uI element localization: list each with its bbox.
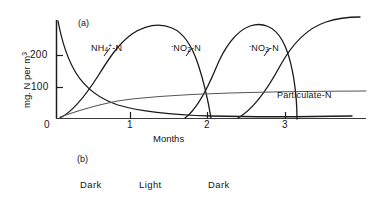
ammonium-base: NH [91, 43, 104, 53]
y-axis-title-exponent: 3 [21, 52, 28, 56]
curve-particulate [238, 17, 360, 118]
series-label-nitrate: -NO3-N [249, 43, 279, 54]
nitrate-base: NO [251, 43, 265, 53]
ammonium-tail: -N [112, 43, 122, 53]
phase-label-dark-1: Dark [80, 180, 102, 190]
figure-canvas [0, 0, 374, 203]
series-label-nitrite: -NO2-N [171, 43, 201, 54]
nitrate-tail: -N [269, 43, 279, 53]
x-tick-label-3: 3 [282, 120, 288, 130]
curve-nitrite [60, 25, 211, 118]
phase-label-dark-2: Dark [208, 180, 230, 190]
y-tick-label-200: 200 [30, 50, 48, 60]
y-axis-title: mg. N per m3 [22, 52, 32, 108]
panel-b-label: (b) [77, 155, 88, 164]
nitrite-tail: -N [191, 43, 201, 53]
curve-nitrate [185, 25, 297, 119]
series-label-particulate: Particulate-N [277, 91, 332, 100]
panel-a-label: (a) [78, 19, 89, 28]
nitrogen-cycle-figure: mg. N per m3 200 100 0 1 2 3 Months (a) … [0, 0, 374, 203]
phase-label-light: Light [139, 180, 162, 190]
x-tick-label-2: 2 [204, 120, 210, 130]
x-axis-title: Months [153, 134, 184, 144]
nitrite-base: NO [173, 43, 187, 53]
origin-label: 0 [44, 120, 50, 130]
y-tick-label-100: 100 [31, 82, 49, 92]
x-tick-label-1: 1 [127, 120, 133, 130]
series-label-ammonium: NH4+-N [91, 43, 122, 54]
